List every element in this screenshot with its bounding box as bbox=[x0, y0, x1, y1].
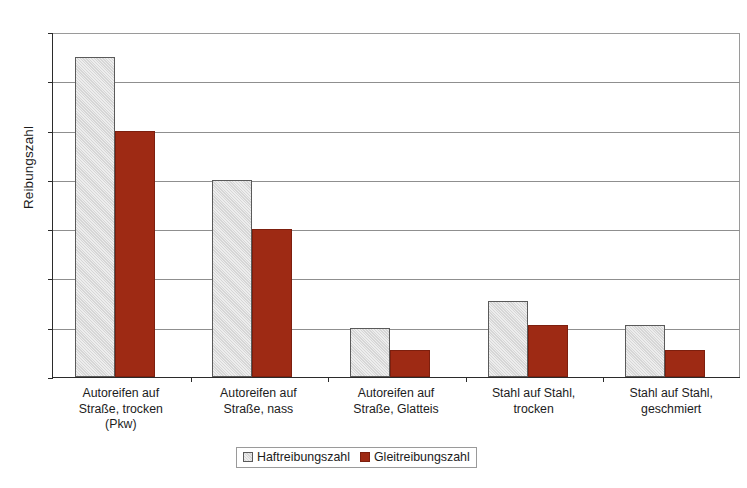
x-label-line: Straße, trocken bbox=[52, 402, 190, 418]
x-tick-mark bbox=[328, 377, 329, 382]
x-label-line: (Pkw) bbox=[52, 417, 190, 433]
legend-swatch-icon bbox=[243, 452, 253, 462]
x-label-line: Straße, Glatteis bbox=[327, 402, 465, 418]
bar-haft-3 bbox=[488, 301, 528, 377]
chart-legend: Haftreibungszahl Gleitreibungszahl bbox=[236, 447, 477, 468]
x-label-category-1: Autoreifen auf Straße, nass bbox=[190, 386, 328, 417]
bar-chart: Reibungszahl 0,70,60,50,40,30,20,10 Auto… bbox=[0, 0, 747, 488]
x-label-line: trocken bbox=[465, 402, 603, 418]
bar-haft-0 bbox=[75, 57, 115, 377]
x-label-line: Stahl auf Stahl, bbox=[602, 386, 740, 402]
y-axis-title: Reibungszahl bbox=[21, 78, 36, 258]
gridline bbox=[53, 132, 740, 133]
bar-haft-1 bbox=[212, 180, 252, 377]
legend-label: Haftreibungszahl bbox=[257, 450, 350, 464]
bar-gleit-0 bbox=[115, 131, 155, 377]
x-label-line: Autoreifen auf bbox=[327, 386, 465, 402]
gridline bbox=[53, 82, 740, 83]
x-label-line: Autoreifen auf bbox=[190, 386, 328, 402]
x-label-category-2: Autoreifen auf Straße, Glatteis bbox=[327, 386, 465, 417]
x-tick-mark bbox=[466, 377, 467, 382]
x-label-line: geschmiert bbox=[602, 402, 740, 418]
y-tick-mark bbox=[48, 230, 53, 231]
y-tick-mark bbox=[48, 378, 53, 379]
y-tick-mark bbox=[48, 279, 53, 280]
gridline bbox=[53, 230, 740, 231]
y-tick-mark bbox=[48, 329, 53, 330]
x-axis-category-labels: Autoreifen auf Straße, trocken (Pkw) Aut… bbox=[52, 386, 740, 442]
bar-haft-2 bbox=[350, 328, 390, 377]
bar-gleit-2 bbox=[390, 350, 430, 377]
plot-area bbox=[52, 33, 740, 378]
gridline bbox=[53, 279, 740, 280]
y-tick-mark bbox=[48, 82, 53, 83]
bar-gleit-3 bbox=[528, 325, 568, 377]
bar-gleit-1 bbox=[252, 229, 292, 377]
x-tick-mark bbox=[603, 377, 604, 382]
legend-label: Gleitreibungszahl bbox=[374, 450, 470, 464]
y-tick-mark bbox=[48, 132, 53, 133]
x-label-line: Autoreifen auf bbox=[52, 386, 190, 402]
legend-swatch-icon bbox=[360, 452, 370, 462]
x-tick-mark bbox=[191, 377, 192, 382]
legend-item-haftreibungszahl: Haftreibungszahl bbox=[243, 450, 350, 464]
x-label-category-3: Stahl auf Stahl, trocken bbox=[465, 386, 603, 417]
x-label-line: Straße, nass bbox=[190, 402, 328, 418]
x-label-category-4: Stahl auf Stahl, geschmiert bbox=[602, 386, 740, 417]
bar-haft-4 bbox=[625, 325, 665, 377]
y-tick-mark bbox=[48, 181, 53, 182]
bar-gleit-4 bbox=[665, 350, 705, 377]
gridline bbox=[53, 181, 740, 182]
y-tick-mark bbox=[48, 33, 53, 34]
x-label-line: Stahl auf Stahl, bbox=[465, 386, 603, 402]
plot-frame-right bbox=[739, 33, 740, 377]
legend-item-gleitreibungszahl: Gleitreibungszahl bbox=[360, 450, 470, 464]
plot-frame-top bbox=[53, 33, 740, 34]
x-label-category-0: Autoreifen auf Straße, trocken (Pkw) bbox=[52, 386, 190, 433]
